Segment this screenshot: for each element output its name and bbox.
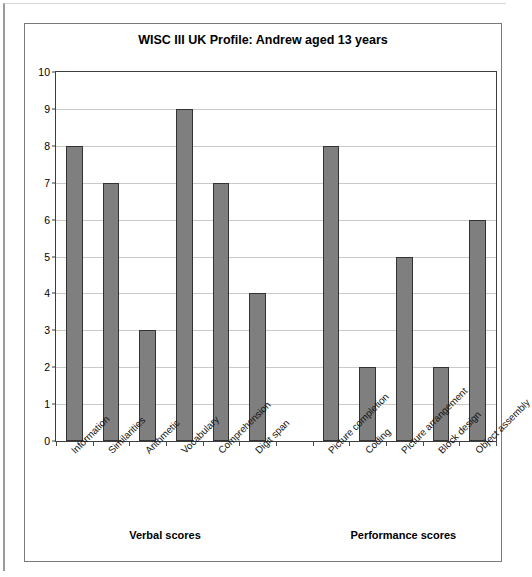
bar [396,257,413,442]
y-axis-tick-label: 3 [44,324,50,336]
bar [176,109,193,441]
bars-layer [56,72,496,441]
y-axis-tick-label: 5 [44,251,50,263]
y-axis-tick-label: 7 [44,177,50,189]
chart-title: WISC III UK Profile: Andrew aged 13 year… [25,33,501,47]
x-axis-labels: InformationSimilaritiesArithmeticVocabul… [55,442,497,527]
y-axis-tick-label: 6 [44,214,50,226]
group-caption: Verbal scores [129,529,201,541]
y-axis-tick-label: 4 [44,287,50,299]
group-caption: Performance scores [350,529,456,541]
chart-panel: WISC III UK Profile: Andrew aged 13 year… [24,23,502,562]
y-axis-tick-label: 8 [44,140,50,152]
y-axis-tick-label: 10 [38,66,50,78]
bar [103,183,120,441]
bar [66,146,83,441]
bar [323,146,340,441]
y-axis-tick-label: 9 [44,103,50,115]
y-axis-tick-label: 0 [44,435,50,447]
document-frame: WISC III UK Profile: Andrew aged 13 year… [3,3,506,571]
plot-area: 012345678910 [55,71,497,442]
y-axis-tick-label: 1 [44,398,50,410]
bar [213,183,230,441]
y-axis-tick-label: 2 [44,361,50,373]
bar [469,220,486,441]
